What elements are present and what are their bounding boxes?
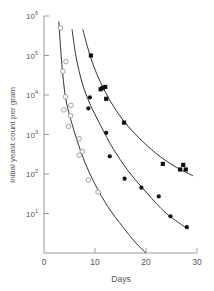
y-tick-label: 102: [26, 168, 38, 179]
open-circle-point: [77, 153, 82, 158]
x-tick-label: 20: [141, 257, 151, 267]
filled-circle-point: [139, 186, 143, 190]
open-circle-point: [68, 113, 73, 118]
x-tick-label: 0: [42, 257, 47, 267]
filled-square-point: [103, 85, 107, 89]
y-axis-ticks: 106105104103102101: [26, 10, 49, 219]
open-circle-point: [86, 178, 91, 183]
open-circle-point: [61, 69, 66, 74]
open-circle-point: [96, 190, 101, 195]
filled-square-point: [181, 163, 185, 167]
filled-square-point: [184, 167, 188, 171]
x-axis-label: Days: [111, 274, 130, 284]
filled-circle-point: [86, 106, 90, 110]
open-circle-point: [63, 95, 68, 100]
y-tick-label: 106: [26, 10, 38, 21]
filled-circle-point: [104, 131, 108, 135]
filled-square-point: [122, 121, 126, 125]
filled-square-point: [161, 162, 165, 166]
open-circle-point: [69, 103, 74, 108]
open-circle-point: [58, 26, 63, 31]
filled-circle-point: [122, 177, 126, 181]
fit-curve-1: [59, 22, 146, 253]
axes: 0102030 106105104103102101 Days Initial …: [8, 10, 202, 284]
filled-circle-point: [185, 225, 189, 229]
y-axis-label: Initial yeast count per gram: [8, 87, 17, 183]
filled-square-point: [89, 53, 93, 57]
filled-circle-point: [157, 194, 161, 198]
fit-curve-3: [83, 29, 193, 175]
open-circle-point: [64, 59, 69, 64]
y-tick-label: 101: [26, 208, 38, 219]
open-circle-point: [77, 136, 82, 141]
y-tick-label: 104: [26, 89, 38, 100]
x-tick-label: 30: [192, 257, 202, 267]
filled-circle-point: [168, 214, 172, 218]
y-tick-label: 103: [26, 129, 38, 140]
x-axis-ticks: 0102030: [42, 248, 202, 267]
filled-square-point: [104, 97, 108, 101]
yeast-count-chart: 0102030 106105104103102101 Days Initial …: [0, 0, 214, 291]
open-circle-point: [62, 108, 67, 113]
data-points: [58, 26, 189, 230]
open-circle-point: [66, 124, 71, 129]
filled-square-point: [178, 167, 182, 171]
filled-circle-point: [88, 95, 92, 99]
y-tick-label: 105: [26, 50, 38, 61]
filled-circle-point: [108, 154, 112, 158]
x-tick-label: 10: [90, 257, 100, 267]
